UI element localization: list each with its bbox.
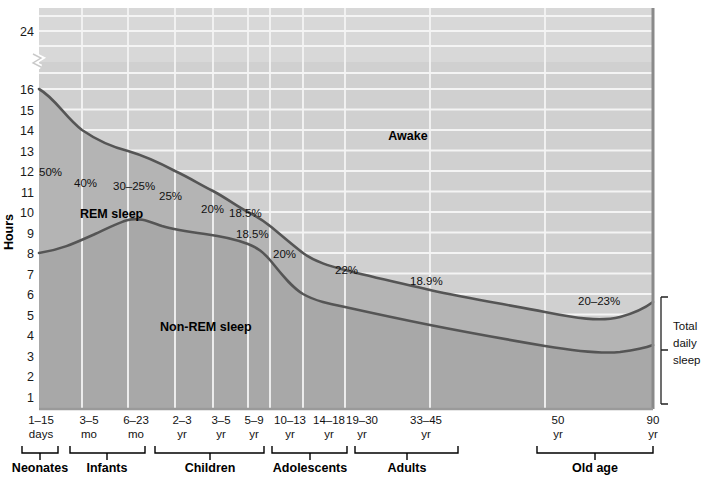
x-tick-2-line2: mo [128,428,144,440]
x-tick-9-line1: 33–45 [410,414,442,426]
x-tick-1-line2: mo [81,428,97,440]
x-tick-6-line1: 10–13 [274,414,306,426]
pct-30-25: 30–25% [113,180,155,192]
pct-18-5b: 18.5% [236,228,269,240]
x-tick-11-line2: yr [648,428,658,440]
pct-25: 25% [159,190,182,202]
group-label-adults: Adults [388,461,427,475]
y-tick-1: 1 [27,391,34,405]
y-tick-16: 16 [20,83,34,97]
pct-18-5a: 18.5% [229,207,262,219]
y-tick-2: 2 [27,370,34,384]
y-tick-4: 4 [27,329,34,343]
y-tick-7: 7 [27,268,34,282]
y-axis-break-icon [33,54,41,67]
bracket-label-line3: sleep [673,354,701,366]
x-tick-10-line1: 50 [552,414,565,426]
y-tick-5: 5 [27,309,34,323]
y-tick-10: 10 [20,206,34,220]
pct-20-23: 20–23% [578,295,620,307]
x-tick-3-line2: yr [177,428,187,440]
x-tick-10-line2: yr [553,428,563,440]
pct-18-9: 18.9% [410,275,443,287]
pct-22: 22% [335,264,358,276]
y-axis-label: Hours [2,214,16,250]
x-tick-5-line2: yr [249,428,259,440]
region-label-rem-sleep: REM sleep [80,207,144,221]
region-label-non-rem-sleep: Non-REM sleep [160,320,252,334]
x-tick-6-line2: yr [285,428,295,440]
y-tick-3: 3 [27,350,34,364]
x-tick-2-line1: 6–23 [123,414,149,426]
total-daily-sleep-bracket-label: Total daily sleep [673,320,701,366]
y-tick-13: 13 [20,145,34,159]
y-tick-12: 12 [20,165,34,179]
pct-40: 40% [74,177,97,189]
x-tick-3-line1: 2–3 [172,414,191,426]
bracket-label-line1: Total [673,320,697,332]
y-tick-6: 6 [27,288,34,302]
pct-20b: 20% [273,248,296,260]
y-tick-11: 11 [21,186,34,200]
y-tick-15: 15 [20,104,34,118]
x-tick-9-line2: yr [421,428,431,440]
x-tick-4-line2: yr [216,428,226,440]
group-label-adolescents: Adolescents [273,461,347,475]
region-label-awake: Awake [388,129,427,143]
x-tick-0-line2: days [29,428,54,440]
x-tick-1-line1: 3–5 [79,414,98,426]
x-tick-7-line1: 14–18 [313,414,345,426]
x-tick-0-line1: 1–15 [28,414,54,426]
bracket-label-line2: daily [673,337,697,349]
pct-50: 50% [39,166,62,178]
x-tick-8-line1: 19–30 [346,414,378,426]
sleep-stages-chart: 24 16 15 14 13 12 11 10 9 8 7 6 5 4 3 2 … [0,0,716,477]
y-tick-14: 14 [20,124,34,138]
y-tick-8: 8 [27,247,34,261]
y-tick-9: 9 [27,227,34,241]
x-tick-5-line1: 5–9 [244,414,263,426]
y-tick-24: 24 [20,25,34,39]
x-tick-8-line2: yr [357,428,367,440]
pct-20a: 20% [201,203,224,215]
group-label-neonates: Neonates [12,461,68,475]
x-tick-4-line1: 3–5 [211,414,230,426]
x-tick-11-line1: 90 [647,414,660,426]
group-label-children: Children [185,461,236,475]
group-label-infants: Infants [87,461,128,475]
group-label-old-age: Old age [572,461,618,475]
x-tick-7-line2: yr [324,428,334,440]
